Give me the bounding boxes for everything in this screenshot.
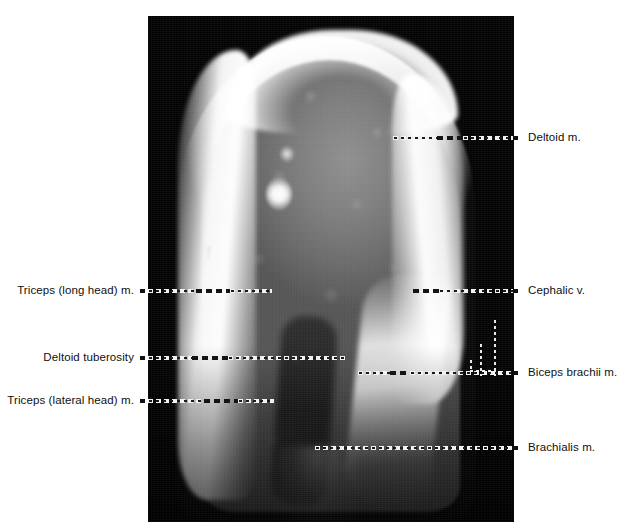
label-text: Deltoid m. bbox=[528, 131, 581, 143]
label-text: Cephalic v. bbox=[528, 284, 585, 296]
label-cephalic-vein: Cephalic v. bbox=[528, 284, 585, 297]
label-brachialis: Brachialis m. bbox=[528, 441, 595, 454]
label-text: Triceps (lateral head) m. bbox=[7, 394, 134, 406]
scan-image-plate bbox=[148, 16, 514, 522]
label-text: Brachialis m. bbox=[528, 441, 595, 453]
label-text: Triceps (long head) m. bbox=[17, 284, 134, 296]
label-triceps-long-head: Triceps (long head) m. bbox=[0, 284, 134, 297]
label-deltoid: Deltoid m. bbox=[528, 131, 581, 144]
secondary-bright-focus bbox=[280, 146, 294, 162]
label-biceps-brachii: Biceps brachii m. bbox=[528, 366, 617, 379]
label-text: Deltoid tuberosity bbox=[43, 351, 134, 363]
label-triceps-lateral-head: Triceps (lateral head) m. bbox=[0, 394, 134, 407]
cortical-bright-focus bbox=[266, 178, 292, 210]
label-text: Biceps brachii m. bbox=[528, 366, 617, 378]
anatomical-figure: Triceps (long head) m. Deltoid tuberosit… bbox=[0, 0, 638, 531]
label-deltoid-tuberosity: Deltoid tuberosity bbox=[0, 351, 134, 364]
distal-bright-tail bbox=[278, 446, 358, 522]
